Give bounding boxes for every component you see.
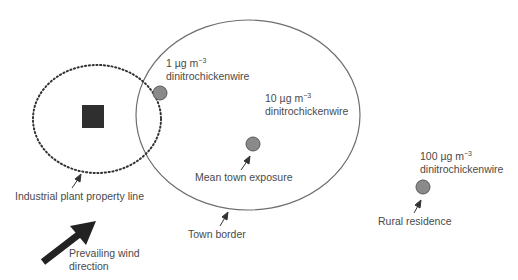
exposure-diagram	[0, 0, 518, 280]
receptor-1-marker	[153, 86, 167, 100]
wind-label-line2: direction	[69, 260, 109, 272]
wind-label-line1: Prevailing wind	[69, 247, 140, 259]
receptor-2-substance: dinitrochickenwire	[265, 105, 348, 117]
rural-residence-label: Rural residence	[378, 215, 452, 228]
wind-direction-label: Prevailing wind direction	[69, 247, 140, 273]
receptor-1-label: 1 µg m−3 dinitrochickenwire	[166, 57, 249, 83]
receptor-2-concentration: 10 µg m	[265, 92, 303, 104]
property-line-label: Industrial plant property line	[15, 190, 144, 203]
industrial-plant-square	[82, 105, 104, 128]
receptor-3-substance: dinitrochickenwire	[420, 163, 503, 175]
receptor-2-marker	[246, 137, 260, 151]
receptor-2-exponent: −3	[303, 92, 311, 99]
receptor-3-label: 100 µg m−3 dinitrochickenwire	[420, 150, 503, 176]
mean-town-exposure-label: Mean town exposure	[195, 171, 292, 184]
receptor-3-concentration: 100 µg m	[420, 150, 464, 162]
receptor-2-label: 10 µg m−3 dinitrochickenwire	[265, 92, 348, 118]
receptor-1-exponent: −3	[198, 57, 206, 64]
receptor-1-concentration: 1 µg m	[166, 57, 198, 69]
town-border-label: Town border	[188, 228, 246, 241]
receptor-3-exponent: −3	[464, 150, 472, 157]
receptor-1-substance: dinitrochickenwire	[166, 70, 249, 82]
receptor-3-marker	[416, 180, 430, 194]
